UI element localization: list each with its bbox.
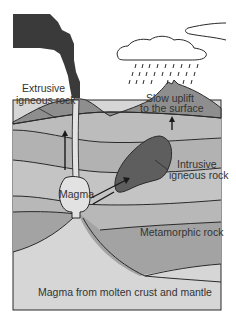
label-metamorphic: Metamorphic rock: [140, 226, 224, 238]
igneous-rock-diagram: Extrusive igneous rock Slow uplift to th…: [0, 0, 236, 324]
label-magma-source: Magma from molten crust and mantle: [38, 286, 212, 298]
cloud-small: [186, 23, 226, 40]
label-extrusive-1: Extrusive: [22, 82, 65, 94]
cloud: [117, 36, 206, 60]
label-uplift-2: to the surface: [140, 102, 204, 114]
rain: [129, 64, 198, 84]
magma-conduit: [72, 100, 79, 178]
label-magma: Magma: [59, 188, 94, 200]
label-intrusive-2: igneous rock: [169, 169, 229, 181]
label-extrusive-2: igneous rock: [16, 94, 76, 106]
